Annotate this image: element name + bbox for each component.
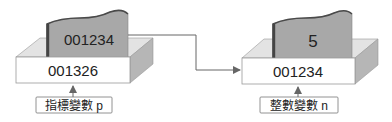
right-box-address-text: 001234 — [273, 63, 323, 80]
right-card-value-text: 5 — [308, 32, 317, 51]
left-card-value-text: 001234 — [64, 31, 114, 48]
diagram-canvas: 001234 001326 指標變數 p 5 001234 整數變數 n — [0, 0, 392, 122]
right-variable-group: 5 001234 整數變數 n — [242, 11, 378, 113]
right-label-text: 整數變數 n — [270, 98, 328, 113]
left-value-card: 001234 — [47, 10, 128, 64]
left-variable-group: 001234 001326 指標變數 p — [16, 10, 153, 113]
right-value-card: 5 — [273, 11, 352, 64]
left-box-address-text: 001326 — [48, 62, 98, 79]
left-label-text: 指標變數 p — [45, 98, 103, 113]
